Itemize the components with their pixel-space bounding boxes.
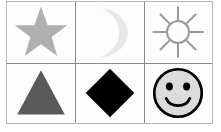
shape-cell-diamond[interactable]: Diamond	[75, 63, 143, 124]
shape-cell-smiley-face[interactable]: Smiley Face	[144, 63, 212, 124]
smiley-face-icon	[151, 66, 205, 120]
shape-grid: Star Crescent Moon Sun	[6, 1, 213, 124]
sun-icon	[149, 3, 207, 61]
crescent-moon-icon	[82, 4, 138, 60]
diamond-icon	[83, 66, 137, 120]
triangle-icon	[14, 66, 68, 120]
shape-cell-triangle[interactable]: Triangle	[7, 63, 75, 124]
shape-cell-star[interactable]: Star	[7, 2, 75, 63]
shape-cell-crescent-moon[interactable]: Crescent Moon	[75, 2, 143, 63]
star-icon	[13, 4, 69, 60]
shape-cell-sun[interactable]: Sun	[144, 2, 212, 63]
